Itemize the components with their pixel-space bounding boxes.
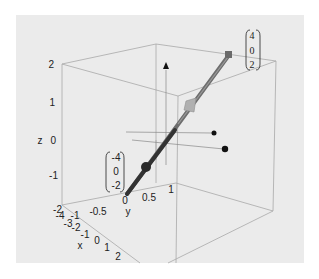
z-tick-0: 0 [50, 135, 56, 146]
vec-bottom-y: 0 [113, 166, 119, 177]
y-axis-arrowhead-icon [222, 146, 228, 152]
z-tick-neg1: -1 [49, 170, 58, 181]
y-tick-neg0.5: -0.5 [89, 206, 107, 217]
z-tick-2: 2 [48, 59, 54, 70]
vec-top-x: 4 [250, 30, 255, 41]
x-tick-2: 2 [115, 251, 121, 262]
y-tick-0.5: 0.5 [142, 192, 156, 203]
x-axis-label: x [78, 240, 83, 251]
line-endpoint-top-marker [225, 51, 232, 58]
x-axis-arrowhead-icon [212, 131, 217, 136]
y-axis-label: y [126, 206, 131, 217]
vec-top-y: 0 [250, 45, 255, 56]
3d-plot[interactable]: 2 1 0 -1 -2 z -1 -0.5 0 0.5 1 y -4 -3 -2… [0, 0, 319, 279]
x-tick-neg1: -1 [81, 229, 90, 240]
vec-top-z: 2 [250, 59, 255, 70]
y-tick-1: 1 [168, 184, 174, 195]
y-tick-0: 0 [122, 195, 128, 206]
vec-bottom-x: -4 [112, 152, 121, 163]
x-tick-0: 0 [94, 235, 100, 246]
z-axis-label: z [38, 135, 43, 146]
x-tick-1: 1 [104, 242, 110, 253]
plot-panel [16, 15, 304, 263]
vec-bottom-z: -2 [112, 180, 121, 191]
line-point-marker[interactable] [141, 162, 151, 172]
x-tick-neg2: -2 [72, 222, 81, 233]
z-tick-1: 1 [49, 97, 55, 108]
